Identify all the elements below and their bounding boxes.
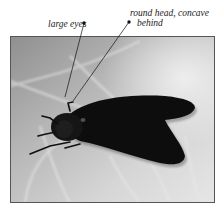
leader-dot-head xyxy=(127,20,130,23)
fly-eye xyxy=(55,120,73,138)
annotation-round-head-line2: behind xyxy=(137,18,163,28)
caption-cut-off xyxy=(10,210,215,214)
fly-photograph xyxy=(10,36,215,203)
annotation-round-head-line1: round head, concave xyxy=(130,8,209,18)
annotation-large-eyes: large eyes xyxy=(48,19,86,29)
